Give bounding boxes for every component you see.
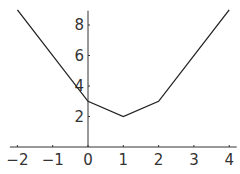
x-tick-label: −2 bbox=[6, 151, 28, 169]
axes bbox=[10, 11, 237, 147]
x-tick-label: −1 bbox=[42, 151, 64, 169]
x-tick-label: 1 bbox=[119, 151, 129, 169]
y-tick-label: 2 bbox=[74, 108, 84, 126]
y-tick-label: 8 bbox=[74, 16, 84, 34]
x-tick-label: 3 bbox=[189, 151, 199, 169]
line-chart: −2−1012342468 bbox=[0, 0, 240, 174]
x-tick-label: 4 bbox=[224, 151, 234, 169]
chart-canvas: −2−1012342468 bbox=[0, 0, 240, 174]
data-line bbox=[17, 10, 229, 117]
x-tick-label: 0 bbox=[83, 151, 93, 169]
x-tick-label: 2 bbox=[154, 151, 164, 169]
y-tick-label: 6 bbox=[74, 47, 84, 65]
